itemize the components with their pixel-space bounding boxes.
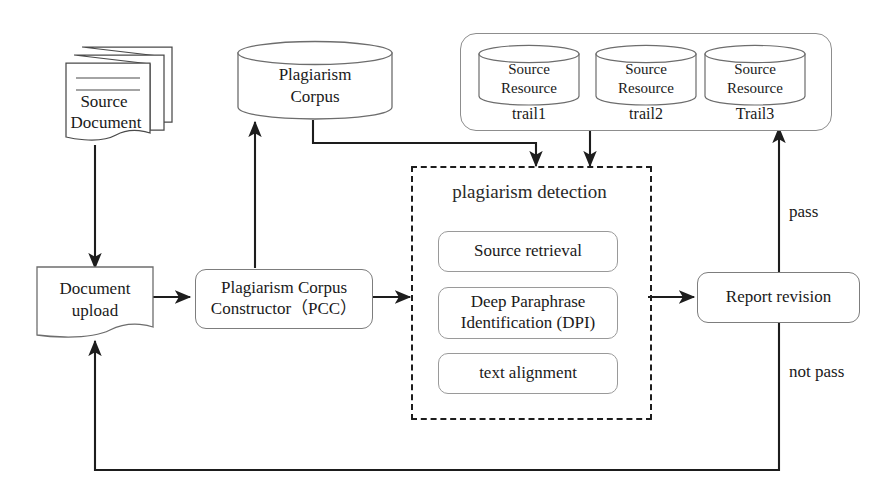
source-resource-cylinder-1: Source Resource (477, 44, 581, 106)
edge-label-not-pass: not pass (789, 362, 844, 382)
plagiarism-corpus-node: Plagiarism Corpus (236, 40, 394, 120)
document-upload-node: Document upload (36, 265, 154, 343)
source-document-node: Source Document (54, 30, 190, 148)
detection-step-source-retrieval: Source retrieval (438, 231, 618, 272)
detection-step-2-line1: Deep Paraphrase (471, 292, 586, 313)
source-resource-2-line2: Resource (594, 80, 698, 98)
plagiarism-corpus-line2: Corpus (236, 87, 394, 107)
source-resource-2-line1: Source (594, 61, 698, 79)
source-document-line1: Source (54, 92, 154, 112)
edge-label-pass: pass (789, 202, 818, 222)
detection-step-2-line2: Identification (DPI) (461, 313, 596, 334)
pcc-line1: Plagiarism Corpus (221, 278, 347, 299)
source-resource-3-trail: Trail3 (703, 105, 807, 123)
plagiarism-corpus-line1: Plagiarism (236, 65, 394, 85)
report-revision-label: Report revision (726, 287, 831, 308)
plagiarism-detection-title: plagiarism detection (411, 181, 648, 203)
pcc-node: Plagiarism Corpus Constructor（PCC） (195, 269, 373, 329)
diagram-canvas: Source Document Plagiarism Corpus Source… (0, 0, 879, 491)
source-resource-2-trail: trail2 (594, 105, 698, 123)
source-document-line2: Document (54, 113, 158, 133)
detection-step-text-alignment: text alignment (438, 353, 618, 394)
pcc-line2: Constructor（PCC） (211, 299, 357, 320)
report-revision-node: Report revision (697, 272, 860, 323)
document-upload-line2: upload (36, 301, 154, 321)
detection-step-dpi: Deep Paraphrase Identification (DPI) (438, 287, 618, 339)
source-resource-1-line1: Source (477, 61, 581, 79)
source-resource-cylinder-3: Source Resource (703, 44, 807, 106)
source-resource-1-trail: trail1 (477, 105, 581, 123)
source-resource-cylinder-2: Source Resource (594, 44, 698, 106)
source-resource-3-line2: Resource (703, 80, 807, 98)
document-upload-line1: Document (36, 279, 154, 299)
detection-step-3-label: text alignment (479, 363, 577, 384)
source-resource-3-line1: Source (703, 61, 807, 79)
detection-step-1-label: Source retrieval (474, 241, 582, 262)
source-resource-1-line2: Resource (477, 80, 581, 98)
